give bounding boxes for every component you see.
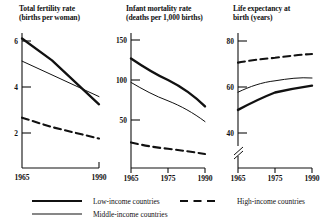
x-tick-label: 1965	[123, 174, 138, 183]
series-lines-life-expectancy	[238, 54, 312, 110]
plot-area-infant-mortality: 150 100 50 1965 1975 1990	[107, 0, 214, 190]
y-tick-label: 150	[116, 36, 127, 45]
legend-swatches: Low-income countries Middle-income count…	[0, 190, 322, 224]
series-line-middle-income	[22, 61, 99, 97]
x-tick-label: 1990	[304, 174, 319, 183]
y-tick-labels-life-expectancy: 80 60 40	[227, 37, 235, 138]
y-tick-label: 60	[227, 83, 235, 92]
chart-panel-life-expectancy: Life expectancy at birth (years) 8	[214, 0, 321, 190]
series-lines-fertility	[22, 39, 99, 139]
legend-item-low-income: Low-income countries	[32, 197, 160, 206]
x-tick-label: 1990	[197, 174, 212, 183]
y-tick-label: 6	[14, 37, 18, 46]
y-tick-label: 2	[14, 129, 18, 138]
x-tick-label: 1975	[160, 174, 175, 183]
series-line-middle-income	[238, 78, 312, 92]
x-tick-labels-fertility: 1965 1990	[14, 173, 106, 182]
legend-label: High-income countries	[237, 197, 305, 206]
x-tick-labels-life-expectancy: 1965 1975 1990	[230, 174, 319, 183]
series-line-middle-income	[131, 82, 205, 121]
series-lines-infant-mortality	[131, 58, 205, 154]
y-tick-label: 4	[14, 83, 18, 92]
y-tick-label: 40	[227, 129, 235, 138]
y-tick-label: 80	[227, 37, 235, 46]
y-tick-labels-infant-mortality: 150 100 50	[116, 36, 127, 125]
plot-area-fertility: 6 4 2 1965 1990	[0, 0, 107, 190]
chart-legend: Low-income countries Middle-income count…	[0, 190, 322, 224]
legend-label: Middle-income countries	[93, 210, 168, 219]
y-tick-label: 100	[116, 76, 127, 85]
y-tick-label: 50	[120, 116, 128, 125]
series-line-high-income	[22, 118, 99, 139]
x-tick-labels-infant-mortality: 1965 1975 1990	[123, 174, 212, 183]
y-tick-labels-fertility: 6 4 2	[14, 37, 18, 138]
x-tick-label: 1965	[230, 174, 245, 183]
series-line-low-income	[22, 39, 99, 105]
chart-panel-fertility: Total fertility rate (births per woman) …	[0, 0, 107, 190]
axes-fertility	[22, 33, 99, 168]
figure-panel-group: Total fertility rate (births per woman) …	[0, 0, 322, 224]
series-line-high-income	[238, 54, 312, 63]
legend-item-middle-income: Middle-income countries	[32, 210, 168, 219]
plot-area-life-expectancy: 80 60 40 1965 1975 1990	[214, 0, 321, 190]
series-line-low-income	[238, 86, 312, 110]
legend-item-high-income: High-income countries	[180, 197, 305, 206]
series-line-high-income	[131, 142, 205, 154]
chart-panel-infant-mortality: Infant mortality rate (deaths per 1,000 …	[107, 0, 214, 190]
series-line-low-income	[131, 58, 205, 106]
x-tick-label: 1975	[267, 174, 282, 183]
legend-label: Low-income countries	[93, 197, 160, 206]
x-tick-label: 1990	[91, 173, 106, 182]
x-tick-label: 1965	[14, 173, 29, 182]
